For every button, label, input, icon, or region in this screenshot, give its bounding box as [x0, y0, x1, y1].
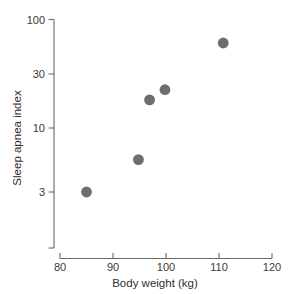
data-point — [81, 187, 92, 198]
data-point — [133, 154, 144, 165]
y-tick-label-30: 30 — [33, 68, 45, 80]
data-point — [160, 84, 171, 95]
data-points-layer — [81, 38, 229, 198]
y-tick-label-3: 3 — [39, 186, 45, 198]
y-tick-label-10: 10 — [33, 122, 45, 134]
x-axis-title: Body weight (kg) — [112, 277, 198, 289]
plot-canvas: 100 30 10 3 Sleep apnea index 80 90 100 … — [0, 0, 296, 294]
data-point — [218, 38, 229, 49]
y-axis-title: Sleep apnea index — [11, 90, 23, 186]
y-axis-group: 100 30 10 3 Sleep apnea index — [11, 14, 54, 249]
x-tick-label-90: 90 — [107, 261, 119, 273]
y-tick-label-100: 100 — [27, 14, 45, 26]
x-tick-label-120: 120 — [263, 261, 281, 273]
x-tick-label-110: 110 — [210, 261, 228, 273]
data-point — [144, 95, 155, 106]
x-tick-label-80: 80 — [54, 261, 66, 273]
scatter-plot-figure: 100 30 10 3 Sleep apnea index 80 90 100 … — [0, 0, 296, 294]
x-tick-label-100: 100 — [157, 261, 175, 273]
x-axis-group: 80 90 100 110 120 Body weight (kg) — [54, 253, 281, 289]
